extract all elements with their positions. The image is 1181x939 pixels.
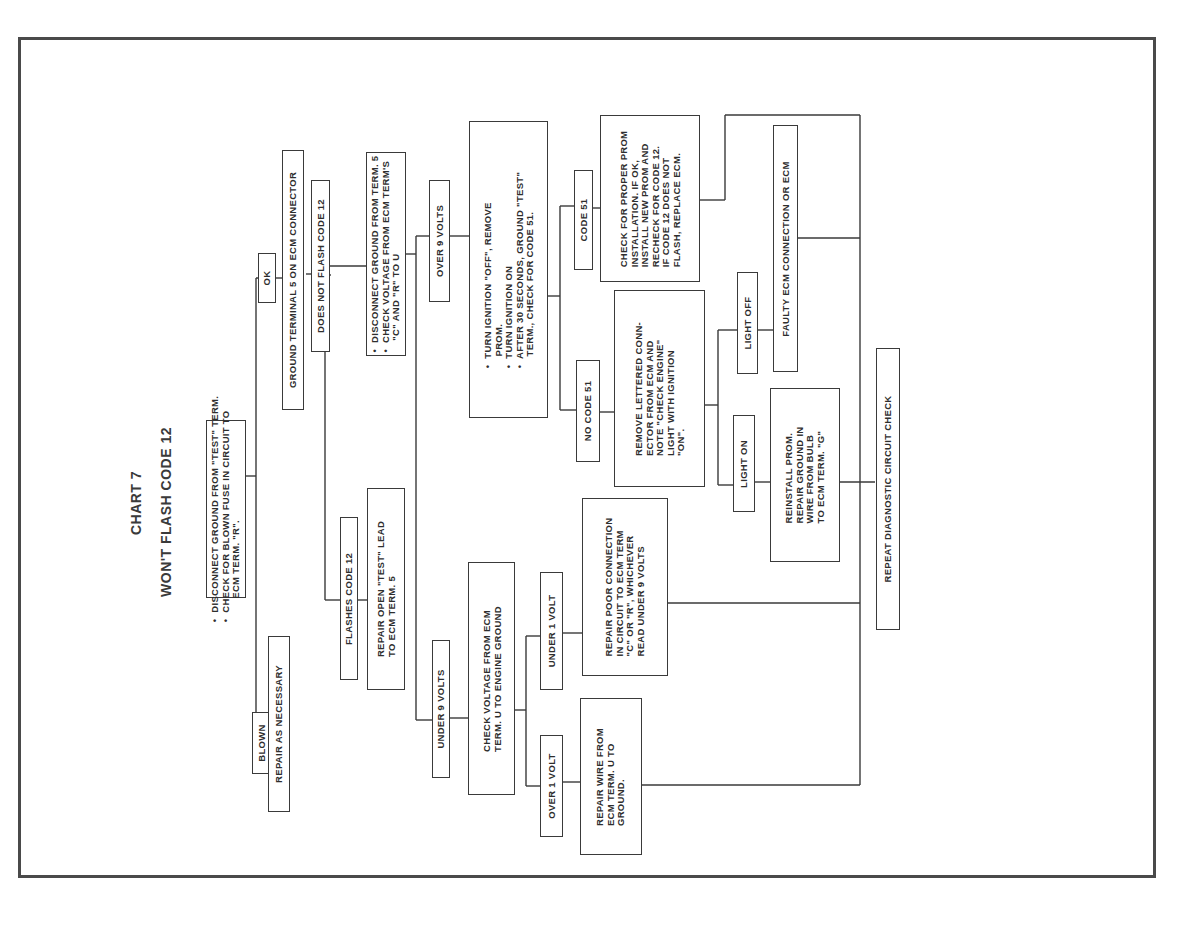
start-step-box: • DISCONNECT GROUND FROM "TEST" TERM. • … <box>206 420 246 598</box>
ground-terminal-5-label: GROUND TERMINAL 5 ON ECM CONNECTOR <box>288 172 299 388</box>
repair-as-necessary-box: REPAIR AS NECESSARY <box>268 636 290 812</box>
no-code-51-box: NO CODE 51 <box>576 360 600 462</box>
check-voltage-ecm-box: CHECK VOLTAGE FROM ECM TERM. U TO ENGINE… <box>468 562 515 795</box>
ok-label: OK <box>262 271 273 286</box>
check-proper-prom-box: CHECK FOR PROPER PROM INSTALLATION. IF O… <box>600 115 700 282</box>
over-1-volt-label: OVER 1 VOLT <box>546 753 557 818</box>
faulty-ecm-label: FAULTY ECM CONNECTION OR ECM <box>780 161 791 336</box>
repair-as-necessary-label: REPAIR AS NECESSARY <box>274 665 285 783</box>
light-off-box: LIGHT OFF <box>737 272 758 374</box>
blown-label: BLOWN <box>257 724 268 761</box>
repair-wire-box: REPAIR WIRE FROM ECM TERM. U TO GROUND. <box>580 698 642 855</box>
chart-title: WON'T FLASH CODE 12 <box>158 427 174 597</box>
remove-lettered-connector-box: REMOVE LETTERED CONN- ECTOR FROM ECM AND… <box>614 290 705 487</box>
disconnect-check-voltage-text: • DISCONNECT GROUND FROM TERM. 5 • CHECK… <box>370 156 402 353</box>
light-on-label: LIGHT ON <box>739 440 750 488</box>
disconnect-check-voltage-box: • DISCONNECT GROUND FROM TERM. 5 • CHECK… <box>366 152 406 356</box>
repeat-diagnostic-check-box: REPEAT DIAGNOSTIC CIRCUIT CHECK <box>876 348 900 630</box>
faulty-ecm-box: FAULTY ECM CONNECTION OR ECM <box>773 125 798 372</box>
under-1-volt-box: UNDER 1 VOLT <box>540 572 563 690</box>
repair-poor-connection-text: REPAIR POOR CONNECTION IN CIRCUIT TO ECM… <box>604 518 646 657</box>
over-1-volt-box: OVER 1 VOLT <box>540 735 563 837</box>
over-9-volts-box: OVER 9 VOLTS <box>429 180 450 302</box>
ok-box: OK <box>258 253 276 303</box>
over-9-volts-label: OVER 9 VOLTS <box>434 205 445 277</box>
code-51-label: CODE 51 <box>578 199 589 242</box>
check-proper-prom-text: CHECK FOR PROPER PROM INSTALLATION. IF O… <box>619 130 682 267</box>
no-code-51-label: NO CODE 51 <box>583 381 594 442</box>
chart-number: CHART 7 <box>128 471 144 535</box>
under-9-volts-label: UNDER 9 VOLTS <box>436 669 447 748</box>
light-off-label: LIGHT OFF <box>742 297 753 350</box>
repair-open-test-text: REPAIR OPEN "TEST" LEAD TO ECM TERM. 5 <box>376 521 397 657</box>
does-not-flash-box: DOES NOT FLASH CODE 12 <box>311 180 330 352</box>
code-51-box: CODE 51 <box>574 170 593 270</box>
repeat-diagnostic-check-label: REPEAT DIAGNOSTIC CIRCUIT CHECK <box>883 396 894 583</box>
turn-ignition-text: • TURN IGNITION "OFF", REMOVE PROM. • TU… <box>482 171 535 367</box>
under-9-volts-box: UNDER 9 VOLTS <box>432 640 450 778</box>
light-on-box: LIGHT ON <box>733 415 755 512</box>
reinstall-prom-box: REINSTALL PROM. REPAIR GROUND IN WIRE FR… <box>770 388 840 562</box>
reinstall-prom-text: REINSTALL PROM. REPAIR GROUND IN WIRE FR… <box>784 427 826 524</box>
flashes-code-12-box: FLASHES CODE 12 <box>340 517 358 680</box>
under-1-volt-label: UNDER 1 VOLT <box>546 595 557 668</box>
start-step-text: • DISCONNECT GROUND FROM "TEST" TERM. • … <box>210 396 242 622</box>
check-voltage-ecm-text: CHECK VOLTAGE FROM ECM TERM. U TO ENGINE… <box>481 606 502 752</box>
remove-lettered-connector-text: REMOVE LETTERED CONN- ECTOR FROM ECM AND… <box>633 321 686 455</box>
flashes-code-12-label: FLASHES CODE 12 <box>344 552 355 644</box>
turn-ignition-box: • TURN IGNITION "OFF", REMOVE PROM. • TU… <box>469 121 548 418</box>
repair-poor-connection-box: REPAIR POOR CONNECTION IN CIRCUIT TO ECM… <box>582 498 668 676</box>
does-not-flash-label: DOES NOT FLASH CODE 12 <box>315 199 326 333</box>
repair-wire-text: REPAIR WIRE FROM ECM TERM. U TO GROUND. <box>595 727 627 825</box>
ground-terminal-5-box: GROUND TERMINAL 5 ON ECM CONNECTOR <box>282 150 304 410</box>
repair-open-test-box: REPAIR OPEN "TEST" LEAD TO ECM TERM. 5 <box>367 488 405 690</box>
